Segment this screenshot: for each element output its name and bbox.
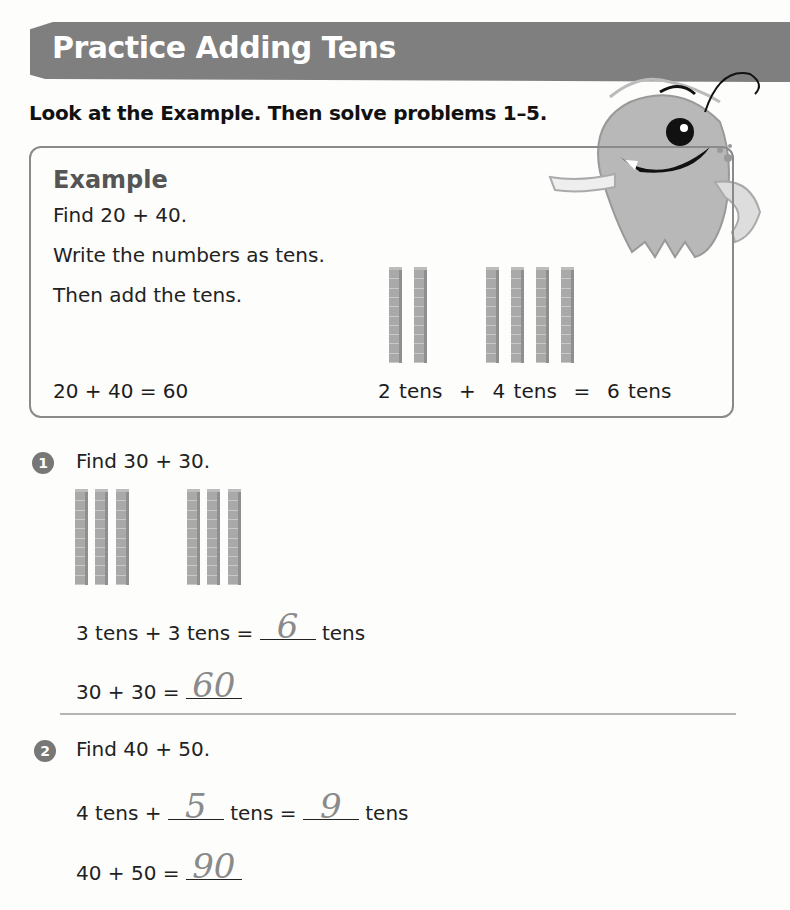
- problem-1-line-1-suffix: tens: [322, 621, 365, 645]
- problem-2-prompt: Find 40 + 50.: [76, 737, 210, 761]
- example-equation-tens: 2 tens + 4 tens = 6 tens: [378, 379, 671, 403]
- instructions: Look at the Example. Then solve problems…: [29, 101, 547, 125]
- ten-rod-icon: [116, 492, 129, 585]
- handwritten-answer: 60: [186, 668, 242, 702]
- handwritten-answer: 9: [303, 789, 359, 823]
- section-divider: [60, 713, 736, 715]
- example-heading: Example: [53, 166, 168, 194]
- example-line-1: Find 20 + 40.: [53, 203, 187, 227]
- example-line-3: Then add the tens.: [53, 283, 242, 307]
- ten-rod-icon: [389, 270, 402, 363]
- ten-rod-icon: [95, 492, 108, 585]
- example-equation-numbers: 20 + 40 = 60: [53, 379, 188, 403]
- problem-2-badge: 2: [34, 740, 56, 762]
- ten-rod-icon: [486, 270, 499, 363]
- ten-rod-icon: [228, 492, 241, 585]
- handwritten-answer: 6: [260, 609, 316, 643]
- problem-2-answer-sum[interactable]: 90: [186, 857, 242, 880]
- ten-rod-icon: [414, 270, 427, 363]
- problem-2-line-1-prefix: 4 tens +: [76, 801, 161, 825]
- handwritten-answer: 5: [168, 789, 224, 823]
- problem-2-answer-tens[interactable]: 9: [303, 797, 359, 820]
- problem-1-line-2-prefix: 30 + 30 =: [76, 680, 180, 704]
- ten-rod-icon: [511, 270, 524, 363]
- example-line-2: Write the numbers as tens.: [53, 243, 325, 267]
- problem-2-line-2-prefix: 40 + 50 =: [76, 861, 180, 885]
- problem-1-answer-tens[interactable]: 6: [260, 617, 316, 640]
- problem-2-answer-addend[interactable]: 5: [168, 797, 224, 820]
- problem-2-line-2: 40 + 50 = 90: [76, 857, 242, 885]
- problem-1-line-2: 30 + 30 = 60: [76, 676, 242, 704]
- problem-2-line-1-suffix: tens: [365, 801, 408, 825]
- problem-1-badge: 1: [32, 452, 54, 474]
- ten-rod-icon: [75, 492, 88, 585]
- problem-1-line-1: 3 tens + 3 tens = 6 tens: [76, 617, 365, 645]
- ten-rod-icon: [561, 270, 574, 363]
- page-title: Practice Adding Tens: [52, 30, 396, 65]
- problem-1-prompt: Find 30 + 30.: [76, 449, 210, 473]
- ten-rod-icon: [187, 492, 200, 585]
- ten-rod-icon: [536, 270, 549, 363]
- problem-1-answer-sum[interactable]: 60: [186, 676, 242, 699]
- ten-rod-icon: [207, 492, 220, 585]
- problem-1-line-1-prefix: 3 tens + 3 tens =: [76, 621, 253, 645]
- handwritten-answer: 90: [186, 849, 242, 883]
- problem-2-line-1-mid: tens =: [230, 801, 296, 825]
- problem-2-line-1: 4 tens + 5 tens = 9 tens: [76, 797, 409, 825]
